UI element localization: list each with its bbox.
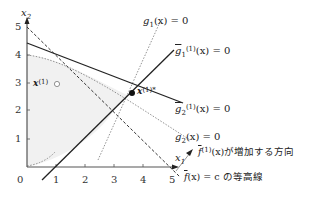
y-tick-1: 1 [15, 134, 21, 144]
f-contour-label: f(x) = c の等高線 [184, 172, 263, 182]
x-tick-2: 2 [82, 175, 88, 185]
g2-label: g2(x) = 0 [175, 132, 220, 145]
y-tick-4: 4 [15, 50, 21, 60]
y-axis-label: x2 [21, 8, 31, 21]
y-tick-3: 3 [15, 78, 21, 88]
x-tick-5: 5 [169, 175, 175, 185]
increase-direction-label: f(1)(x)が増加する方向 [198, 147, 294, 157]
optimization-diagram: 0 1 2 3 4 5 1 2 3 4 5 x2 x1 g1(x) = 0 g1… [0, 0, 317, 198]
current-point-label: x(1) [33, 79, 48, 88]
plot-canvas [0, 0, 317, 198]
optimal-point [129, 90, 135, 96]
g1-tilde-label: g1(1)(x) = 0 [175, 46, 230, 59]
current-point [54, 81, 59, 86]
x-tick-4: 4 [140, 175, 146, 185]
x-tick-3: 3 [111, 175, 117, 185]
y-tick-2: 2 [15, 105, 21, 115]
g2-tilde-label: g2(1)(x) = 0 [175, 104, 230, 117]
x-tick-1: 1 [53, 175, 59, 185]
origin-label: 0 [17, 175, 23, 185]
x-axis-label: x1 [175, 153, 185, 166]
g1-label: g1(x) = 0 [143, 16, 188, 29]
y-tick-5: 5 [15, 22, 21, 32]
optimal-point-label: x(1)* [137, 87, 156, 96]
